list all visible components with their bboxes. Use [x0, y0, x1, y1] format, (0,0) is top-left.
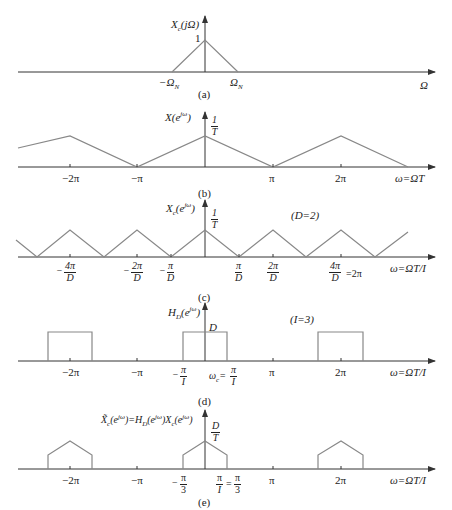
panel-e-tick-pi-over-3: π3 — [234, 473, 241, 495]
panel-e-tick-neg-2pi: −2π — [62, 475, 79, 486]
panel-e-tick-neg-pi: −π — [131, 475, 143, 486]
panel-b-caption: (b) — [198, 187, 211, 199]
panel-d-tick-neg-pi: −π — [131, 367, 143, 378]
panel-c — [16, 200, 435, 257]
figure-canvas — [0, 0, 452, 510]
panel-e-caption: (e) — [198, 496, 210, 508]
passband-neg-2pi — [48, 332, 92, 361]
panel-c-y-label: Xc(ejω) — [166, 202, 195, 217]
panel-d-tick-neg-pi-over-i: −πI — [180, 365, 187, 387]
panel-d-y-label: HD(ejω) — [168, 306, 200, 321]
panel-d-annotation: (I=3) — [290, 314, 314, 325]
panel-c-tick-pi-over-d: πD — [235, 261, 242, 283]
panel-c-caption: (c) — [198, 291, 210, 303]
panel-c-tick-neg-4pi-over-d: −4πD — [64, 261, 76, 283]
panel-e-y-label: X̃c(ejω)=HD(ejω)Xc(ejω) — [101, 414, 193, 428]
panel-b-peak-label: 1 T — [211, 115, 218, 137]
panel-d-tick-neg-2pi: −2π — [62, 367, 79, 378]
panel-e-tick-neg-pi-over-3: −π3 — [180, 473, 187, 495]
filtered-spectrum-pos-2pi — [318, 441, 363, 469]
panel-e-tick-equals: = — [226, 479, 232, 489]
panel-b-tick-pi: π — [269, 173, 275, 184]
panel-d-tick-pi: π — [269, 367, 275, 378]
panel-e — [18, 410, 435, 469]
panel-b — [18, 112, 435, 167]
panel-b-tick-neg-pi: −π — [131, 173, 143, 184]
panel-a-caption: (a) — [198, 88, 210, 100]
panel-c-tick-2pi-over-d: 2πD — [267, 261, 279, 283]
periodic-spectrum — [18, 136, 408, 167]
panel-d-gain-label: D — [209, 322, 217, 333]
panel-e-peak-label: D T — [211, 421, 220, 443]
panel-d-tick-omega-c-label: ωc= — [209, 371, 226, 384]
panel-e-tick-2pi: 2π — [335, 475, 346, 486]
panel-a-peak-label: 1 — [195, 33, 201, 44]
panel-c-annotation: (D=2) — [291, 210, 319, 221]
panel-d-caption: (d) — [198, 395, 211, 407]
panel-c-tick-equals-2pi: =2π — [346, 269, 362, 279]
panel-c-tick-4pi-over-d: 4πD — [329, 261, 341, 283]
panel-c-peak-label: 1 T — [211, 208, 218, 230]
passband-pos-2pi — [318, 332, 363, 361]
panel-d-tick-pi-over-i: πI — [230, 365, 237, 387]
panel-e-tick-pi: π — [269, 475, 275, 486]
filtered-spectrum-neg-2pi — [48, 441, 92, 469]
panel-b-tick-neg-2pi: −2π — [62, 173, 79, 184]
panel-b-tick-2pi: 2π — [335, 173, 346, 184]
panel-e-tick-pi-over-i: πI — [216, 473, 223, 495]
panel-d-x-axis-label: ω=ΩT/I — [390, 367, 426, 378]
panel-c-tick-neg-pi-over-d: −πD — [167, 261, 174, 283]
panel-c-tick-neg-2pi-over-d: −2πD — [131, 261, 143, 283]
panel-a — [18, 16, 435, 72]
panel-e-x-axis-label: ω=ΩT/I — [390, 475, 426, 486]
panel-c-x-axis-label: ω=ΩT/I — [390, 263, 426, 274]
compressed-spectrum — [16, 230, 408, 257]
panel-a-tick-neg-omega-n: −ΩN — [159, 77, 179, 91]
panel-a-tick-omega-n: ΩN — [230, 77, 243, 91]
panel-b-y-label: X(ejω) — [165, 111, 191, 123]
panel-a-x-axis-label: Ω — [420, 80, 428, 91]
panel-b-x-axis-label: ω=ΩT — [395, 173, 424, 184]
panel-d — [18, 303, 435, 361]
panel-d-tick-2pi: 2π — [335, 367, 346, 378]
